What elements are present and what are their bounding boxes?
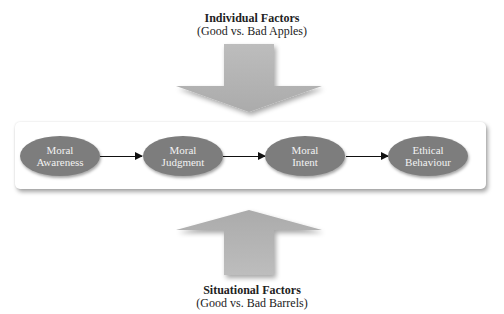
individual-factors-subtitle: (Good vs. Bad Apples) xyxy=(0,25,504,38)
step-line2: Behaviour xyxy=(405,156,451,168)
situational-factors-subtitle: (Good vs. Bad Barrels) xyxy=(0,297,504,310)
arrow-connector-2 xyxy=(223,156,265,157)
step-moral-awareness: Moral Awareness xyxy=(20,136,100,176)
step-moral-judgment: Moral Judgment xyxy=(143,136,223,176)
step-line2: Awareness xyxy=(36,156,83,168)
up-arrow-icon xyxy=(176,210,322,275)
step-line1: Moral xyxy=(292,144,319,156)
step-line1: Moral xyxy=(170,144,197,156)
arrow-connector-1 xyxy=(100,156,142,157)
step-line1: Moral xyxy=(47,144,74,156)
step-line2: Intent xyxy=(292,156,318,168)
step-line1: Ethical xyxy=(412,144,443,156)
step-moral-intent: Moral Intent xyxy=(265,136,345,176)
situational-factors-label: Situational Factors (Good vs. Bad Barrel… xyxy=(0,284,504,310)
individual-factors-label: Individual Factors (Good vs. Bad Apples) xyxy=(0,12,504,38)
step-line2: Judgment xyxy=(162,156,205,168)
arrow-connector-3 xyxy=(346,156,388,157)
down-arrow-icon xyxy=(176,44,322,112)
step-ethical-behaviour: Ethical Behaviour xyxy=(388,136,468,176)
